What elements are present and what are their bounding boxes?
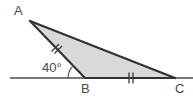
triangle-diagram-canvas xyxy=(0,0,193,102)
angle-arc-b xyxy=(68,65,74,78)
angle-measure-label-b: 40° xyxy=(42,61,62,74)
vertex-label-b: B xyxy=(81,82,90,95)
vertex-label-c: C xyxy=(175,82,184,95)
vertex-label-a: A xyxy=(14,4,23,17)
geometry-figure: A B C 40° xyxy=(0,0,193,102)
